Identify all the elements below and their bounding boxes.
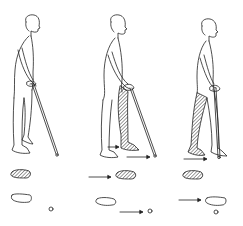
figure-stage-2 — [100, 15, 156, 159]
cane-point — [49, 207, 53, 211]
figure-stage-3 — [184, 19, 227, 161]
unaffected-footprint — [11, 194, 31, 203]
cane-walking-illustration — [0, 0, 243, 226]
footprint-diagram — [11, 170, 226, 214]
affected-footprint — [11, 170, 31, 178]
figure-stage-1 — [12, 15, 58, 156]
